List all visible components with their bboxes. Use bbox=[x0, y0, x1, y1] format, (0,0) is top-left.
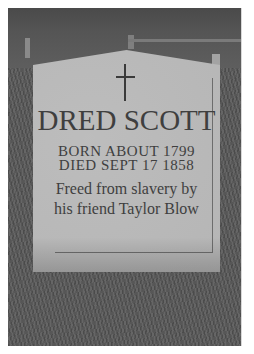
epitaph-line-2: his friend Taylor Blow bbox=[33, 200, 220, 218]
epitaph-line-1: Freed from slavery by bbox=[33, 180, 220, 198]
distant-lawn-edge bbox=[128, 39, 241, 42]
distant-gravestone bbox=[128, 35, 134, 49]
inscription-died: DIED SEPT 17 1858 bbox=[33, 157, 220, 174]
inscription-name: DRED SCOTT bbox=[33, 104, 220, 137]
cross-icon bbox=[116, 64, 135, 101]
distant-gravestone bbox=[25, 38, 30, 58]
stone-base-shadow bbox=[33, 237, 220, 272]
